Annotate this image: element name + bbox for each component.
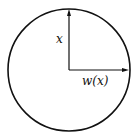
arrowhead-up-icon bbox=[67, 9, 71, 16]
circle-diagram: x w(x) bbox=[0, 0, 135, 137]
arrowhead-right-icon bbox=[122, 68, 129, 72]
horizontal-label: w(x) bbox=[82, 74, 109, 88]
vertical-label: x bbox=[56, 32, 63, 46]
horizontal-arrow bbox=[69, 68, 129, 72]
vertical-arrow bbox=[67, 9, 71, 70]
